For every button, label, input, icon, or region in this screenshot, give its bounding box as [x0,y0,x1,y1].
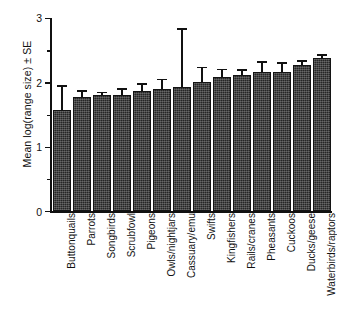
x-axis-tick-label: Ducks/geese [306,213,317,271]
bar [73,97,90,212]
bar-group [173,18,190,211]
error-bar [201,68,203,82]
error-bar [141,85,143,91]
error-bar-cap [237,69,248,71]
bar-group [113,18,130,211]
error-bar [261,63,263,72]
bar-group [213,18,230,211]
bar [153,89,170,211]
error-bar-cap [137,83,148,85]
error-bar-cap [197,67,208,69]
error-bar [281,64,283,72]
y-tick-label-0: 0 [28,206,42,218]
x-axis-tick-label: Waterbirds/raptors [326,213,337,296]
x-axis-tick-label: Kingfishers [226,213,237,263]
bars-layer [52,18,332,211]
bar [273,72,290,211]
y-axis-title-container: Mean log(range size) ± SE [2,38,18,208]
bar-group [73,18,90,211]
y-tick-label-1: 1 [28,141,42,153]
bar [113,95,130,211]
y-tick-1 [45,147,50,148]
bar-group [233,18,250,211]
bar [293,65,310,211]
x-axis-labels: ButtonquailsParrotsSongbirdsScrubfowlPig… [50,213,332,321]
x-axis-tick-label: Cassuary/emu [186,213,197,278]
x-axis-tick-label: Cuckoos [286,213,297,252]
y-tick-2 [45,82,50,83]
y-tick-label-2: 2 [28,77,42,89]
bar-group [313,18,330,211]
bar [313,58,330,211]
error-bar-cap [217,69,228,71]
error-bar [161,80,163,89]
x-axis-tick-label: Swifts [206,213,217,240]
error-bar-cap [297,60,308,62]
bar-group [133,18,150,211]
x-axis-tick-label: Songbirds [106,213,117,258]
error-bar-cap [317,54,328,56]
error-bar [61,87,63,110]
bar [93,95,110,211]
x-axis-tick-label: Parrots [86,213,97,246]
bar [193,82,210,211]
error-bar [121,90,123,95]
error-bar-cap [57,85,68,87]
error-bar [81,92,83,97]
y-minor-tick-2-5 [47,50,51,51]
error-bar-cap [77,90,88,92]
y-tick-3 [45,18,50,19]
error-bar-cap [277,62,288,64]
y-axis-title: Mean log(range size) ± SE [21,19,33,189]
bar-group [93,18,110,211]
bar [233,75,250,211]
bar-group [273,18,290,211]
x-axis-tick-label: Scrubfowl [126,213,137,257]
y-minor-tick-1-5 [47,115,51,116]
error-bar-cap [97,92,108,94]
bar-group [193,18,210,211]
bar [213,77,230,211]
x-axis-tick-label: Buttonquails [66,213,77,269]
bar-group [53,18,70,211]
error-bar-cap [157,79,168,81]
x-axis-tick-label: Pheasants [266,213,277,261]
bar-group [153,18,170,211]
error-bar-cap [257,61,268,63]
y-tick-label-3: 3 [28,12,42,24]
x-axis-tick-label: Owls/nightjars [166,213,177,277]
error-bar [321,56,323,58]
error-bar-cap [117,88,128,90]
error-bar-cap [177,28,188,30]
bar [133,91,150,211]
error-bar [221,70,223,77]
error-bar [101,93,103,95]
error-bar [181,30,183,88]
bar [173,87,190,211]
plot-area [50,18,332,212]
error-bar [241,71,243,75]
bar-group [293,18,310,211]
bar-group [253,18,270,211]
y-minor-tick-0-5 [47,179,51,180]
bar [53,110,70,211]
bar [253,72,270,211]
x-axis-tick-label: Pigeons [146,213,157,250]
x-axis-tick-label: Rails/cranes [246,213,257,269]
error-bar [301,62,303,65]
